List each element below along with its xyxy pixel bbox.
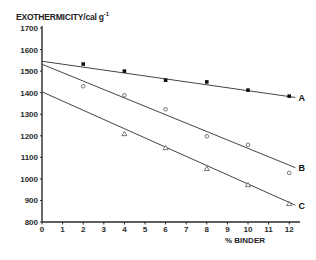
x-tick-label: 7 [184, 225, 189, 234]
y-tick-label: 800 [25, 218, 39, 227]
data-point-square [205, 80, 209, 84]
chart-plot: 8009001000110012001300140015001600170001… [0, 0, 316, 260]
x-tick-label: 5 [143, 225, 148, 234]
data-point-circle [123, 93, 127, 97]
x-tick-label: 1 [60, 225, 65, 234]
series-label-a: A [298, 93, 305, 103]
x-tick-label: 10 [244, 225, 253, 234]
data-point-square [287, 94, 291, 98]
y-tick-label: 1100 [21, 153, 39, 162]
x-tick-label: 12 [285, 225, 294, 234]
x-tick-label: 4 [122, 225, 127, 234]
data-point-circle [164, 107, 168, 111]
x-tick-label: 8 [205, 225, 210, 234]
data-point-circle [81, 84, 85, 88]
y-tick-label: 1500 [20, 67, 38, 76]
data-point-square [81, 62, 85, 66]
y-tick-label: 1300 [20, 110, 38, 119]
data-point-circle [287, 171, 291, 175]
x-tick-label: 9 [225, 225, 230, 234]
fit-line-c [42, 92, 295, 205]
series-label-c: C [298, 201, 305, 211]
data-point-square [123, 69, 127, 73]
data-point-triangle [122, 131, 127, 135]
data-point-circle [205, 134, 209, 138]
x-tick-label: 3 [102, 225, 107, 234]
y-tick-label: 1600 [20, 46, 38, 55]
data-point-square [246, 88, 250, 92]
y-tick-label: 1000 [20, 175, 38, 184]
y-tick-label: 1400 [20, 89, 38, 98]
y-tick-label: 1700 [20, 24, 38, 33]
x-tick-label: 2 [81, 225, 86, 234]
data-point-circle [246, 143, 250, 147]
y-tick-label: 900 [25, 196, 39, 205]
data-point-triangle [204, 166, 209, 170]
x-tick-label: 11 [264, 225, 273, 234]
data-point-square [164, 78, 168, 82]
y-tick-label: 1200 [20, 132, 38, 141]
x-tick-label: 0 [40, 225, 45, 234]
series-label-b: B [298, 163, 305, 173]
x-tick-label: 6 [163, 225, 168, 234]
